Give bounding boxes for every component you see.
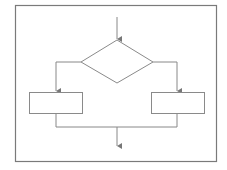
flowchart-diagram xyxy=(0,0,227,170)
left-process-box xyxy=(30,93,83,114)
right-process-box xyxy=(152,93,205,114)
diagram-frame xyxy=(16,6,217,162)
